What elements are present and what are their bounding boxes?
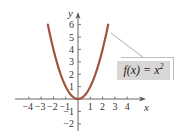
x-axis-label: x xyxy=(143,101,149,113)
x-tick-label: 2 xyxy=(100,101,105,112)
y-tick-label: 1 xyxy=(69,81,74,92)
x-tick-label: −4 xyxy=(22,101,33,112)
y-tick-label: 5 xyxy=(69,32,74,43)
y-axis-label: y xyxy=(67,7,73,19)
x-tick-label: −3 xyxy=(35,101,46,112)
annotation-leader-line xyxy=(111,33,144,58)
x-tick-label: 4 xyxy=(125,101,130,112)
y-tick-label: 2 xyxy=(69,69,74,80)
tick-labels: −4−3−2−11234−2−1123456 xyxy=(22,19,129,129)
y-tick-label: 3 xyxy=(69,56,74,67)
x-tick-label: 1 xyxy=(88,101,93,112)
y-axis xyxy=(76,12,81,131)
function-label-exponent: 2 xyxy=(160,62,164,71)
x-tick-label: 3 xyxy=(112,101,117,112)
x-tick-label: −2 xyxy=(47,101,58,112)
function-label-text: f(x) = x xyxy=(123,63,159,77)
y-tick-label: 4 xyxy=(69,44,74,55)
function-label: f(x) = x2 xyxy=(117,62,170,78)
y-tick-label: 6 xyxy=(69,19,74,30)
y-tick-label: −2 xyxy=(63,118,74,129)
function-label-box: f(x) = x2 xyxy=(117,61,170,80)
y-tick-label: −1 xyxy=(63,106,74,117)
